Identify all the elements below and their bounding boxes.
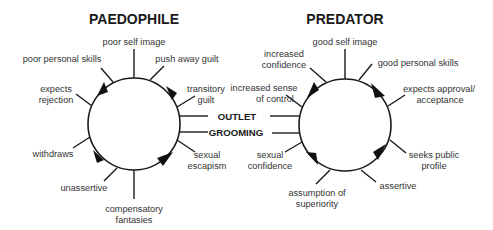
label-expects-approval-1: expects approval/: [403, 84, 475, 94]
spoke-increased-confidence: [310, 68, 326, 82]
outlet-label: OUTLET: [218, 111, 257, 122]
paedophile-cycle: PAEDOPHILE poor self image poor personal…: [23, 11, 227, 225]
paedophile-predator-cycle-diagram: PAEDOPHILE poor self image poor personal…: [0, 0, 493, 230]
label-poor-personal-skills: poor personal skills: [23, 54, 102, 64]
spoke-expects-rejection: [76, 94, 92, 106]
label-sexual-confidence-1: sexual: [257, 150, 284, 160]
label-increased-confidence-2: confidence: [262, 60, 306, 70]
label-compensatory-fantasies-2: fantasies: [116, 215, 153, 225]
label-poor-self-image: poor self image: [103, 37, 166, 47]
label-seeks-public-profile-1: seeks public: [409, 150, 460, 160]
label-increased-sense-of-control-2: of control: [256, 94, 294, 104]
spoke-poor-personal-skills: [101, 68, 113, 82]
label-seeks-public-profile-2: profile: [421, 161, 446, 171]
label-assertive: assertive: [380, 181, 417, 191]
label-expects-approval-2: acceptance: [417, 95, 464, 105]
label-increased-confidence-1: increased: [264, 49, 304, 59]
predator-cycle: PREDATOR good self image increased confi…: [231, 11, 476, 209]
label-push-away-guilt: push away guilt: [155, 54, 219, 64]
predator-title: PREDATOR: [306, 11, 383, 27]
label-sexual-escapism-2: escapism: [188, 161, 227, 171]
label-increased-sense-of-control-1: increased sense: [231, 83, 298, 93]
spoke-assertive: [361, 170, 376, 182]
spoke-withdraws: [73, 137, 90, 148]
spoke-unassertive: [104, 168, 117, 181]
label-assumption-of-superiority-2: superiority: [296, 199, 339, 209]
spoke-expects-approval: [388, 95, 405, 106]
label-sexual-escapism-1: sexual: [194, 150, 221, 160]
spoke-seeks-public-profile: [390, 140, 406, 153]
label-transitory-guilt-1: transitory: [187, 84, 225, 94]
spoke-good-personal-skills: [359, 64, 372, 80]
label-good-self-image: good self image: [313, 37, 378, 47]
label-sexual-confidence-2: confidence: [248, 161, 292, 171]
label-good-personal-skills: good personal skills: [378, 58, 459, 68]
paedophile-title: PAEDOPHILE: [89, 11, 179, 27]
label-assumption-of-superiority-1: assumption of: [288, 188, 346, 198]
spoke-push-away-guilt: [150, 66, 164, 80]
label-withdraws: withdraws: [32, 149, 74, 159]
label-expects-rejection-2: rejection: [39, 95, 74, 105]
spoke-sexual-escapism: [177, 140, 195, 152]
grooming-label: GROOMING: [209, 127, 263, 138]
label-transitory-guilt-2: guilt: [198, 95, 215, 105]
label-expects-rejection-1: expects: [40, 84, 72, 94]
label-compensatory-fantasies-1: compensatory: [105, 204, 163, 214]
spoke-assumption-of-superiority: [316, 170, 330, 184]
connectors: OUTLET GROOMING: [209, 111, 263, 138]
label-unassertive: unassertive: [61, 183, 108, 193]
spoke-sexual-confidence: [285, 142, 302, 152]
spoke-transitory-guilt: [177, 96, 195, 107]
